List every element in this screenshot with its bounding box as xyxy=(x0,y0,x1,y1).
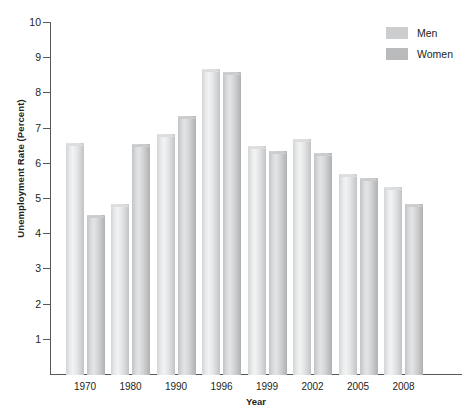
bar-cap xyxy=(132,144,150,147)
x-axis-tick-label: 1980 xyxy=(106,381,156,392)
bar-cap xyxy=(223,72,241,75)
x-axis-tick-label: 1990 xyxy=(151,381,201,392)
bar-women-1990 xyxy=(178,116,196,375)
bar-cap xyxy=(405,204,423,207)
y-axis-tick-label: 9 xyxy=(3,52,41,62)
x-axis-tick-label: 2005 xyxy=(333,381,383,392)
bar-women-1970 xyxy=(87,215,105,375)
y-axis-tick-label: 10 xyxy=(3,17,41,27)
legend: Men Women xyxy=(386,24,472,66)
bar-cap xyxy=(157,134,175,137)
bar-cap xyxy=(360,178,378,181)
plot-area xyxy=(50,22,468,375)
bar-women-2005 xyxy=(360,178,378,375)
bar-cap xyxy=(248,146,266,149)
legend-item-women: Women xyxy=(386,45,472,62)
x-axis-title: Year xyxy=(50,396,462,407)
legend-item-men: Men xyxy=(386,24,472,41)
bar-women-2008 xyxy=(405,204,423,375)
y-axis-tick-label-wrap: 9 xyxy=(0,52,41,62)
bar-cap xyxy=(202,69,220,72)
bar-cap xyxy=(384,187,402,190)
bar-women-1996 xyxy=(223,72,241,375)
bar-cap xyxy=(293,139,311,142)
bar-men-2002 xyxy=(293,139,311,375)
legend-label-men: Men xyxy=(417,27,437,39)
y-axis-title: Unemployment Rate (Percent) xyxy=(15,69,26,269)
bar-men-2008 xyxy=(384,187,402,375)
bar-men-1980 xyxy=(111,204,129,375)
bar-men-1999 xyxy=(248,146,266,375)
bar-cap xyxy=(178,116,196,119)
bar-women-1980 xyxy=(132,144,150,375)
x-axis-tick-label: 1970 xyxy=(60,381,110,392)
y-axis-tick-label-wrap: 10 xyxy=(0,17,41,27)
bar-cap xyxy=(314,153,332,156)
bar-men-1996 xyxy=(202,69,220,375)
x-axis-tick-label: 1996 xyxy=(197,381,247,392)
y-axis-tick-label-wrap: 1 xyxy=(0,334,41,344)
x-axis-tick-label: 2008 xyxy=(379,381,429,392)
bar-men-2005 xyxy=(339,174,357,375)
bar-men-1990 xyxy=(157,134,175,375)
bar-men-1970 xyxy=(66,143,84,375)
y-axis-tick-label: 2 xyxy=(3,299,41,309)
bar-cap xyxy=(269,151,287,154)
legend-label-women: Women xyxy=(417,48,453,60)
y-axis-tick-label-wrap: 2 xyxy=(0,299,41,309)
x-axis-tick-label: 1999 xyxy=(242,381,292,392)
legend-swatch-women-icon xyxy=(386,48,408,60)
unemployment-rate-bar-chart: 12345678910 Unemployment Rate (Percent) … xyxy=(0,0,476,418)
bar-cap xyxy=(339,174,357,177)
bar-cap xyxy=(87,215,105,218)
bar-cap xyxy=(111,204,129,207)
bar-women-1999 xyxy=(269,151,287,375)
bar-cap xyxy=(66,143,84,146)
legend-swatch-men-icon xyxy=(386,27,408,39)
x-axis-tick-label: 2002 xyxy=(288,381,338,392)
bar-women-2002 xyxy=(314,153,332,375)
y-axis-tick-label: 1 xyxy=(3,334,41,344)
